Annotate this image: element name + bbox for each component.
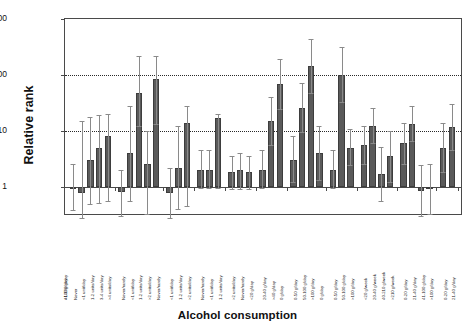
- error-cap-upper: [277, 59, 282, 60]
- x-tick-label: 0-50 g/day: [294, 280, 299, 300]
- error-bar: [412, 106, 413, 141]
- error-cap-lower: [330, 188, 335, 189]
- error-cap-lower: [317, 180, 322, 181]
- y-tick-mark: [61, 131, 65, 132]
- error-cap-lower: [229, 189, 234, 190]
- x-tick-label: >100 g/day: [430, 279, 435, 300]
- x-tick-label: <1 unit/day: [210, 279, 215, 300]
- x-group-tick: [225, 187, 226, 191]
- error-cap-lower: [207, 188, 212, 189]
- error-cap-lower: [379, 201, 384, 202]
- error-cap-upper: [388, 131, 393, 132]
- error-bar: [187, 106, 188, 206]
- x-tick-label: 21-40 g/day: [413, 277, 418, 300]
- error-cap-upper: [291, 136, 296, 137]
- error-bar: [319, 126, 320, 180]
- x-axis-title: Alcohol consumption: [0, 309, 475, 321]
- error-cap-upper: [229, 156, 234, 157]
- error-bar: [90, 117, 91, 204]
- error-cap-upper: [128, 106, 133, 107]
- x-tick-label: Never/rarely: [157, 277, 162, 300]
- error-bar: [218, 114, 219, 188]
- x-tick-label: 3-4 units/day: [100, 275, 105, 300]
- error-bar: [311, 39, 312, 92]
- error-bar: [156, 56, 157, 124]
- x-tick-label: <20 g/day: [250, 281, 255, 300]
- error-bar: [293, 136, 294, 182]
- y-tick-mark: [61, 19, 65, 20]
- error-cap-upper: [379, 147, 384, 148]
- error-cap-upper: [185, 106, 190, 107]
- error-cap-upper: [198, 150, 203, 151]
- error-cap-upper: [154, 56, 159, 57]
- error-cap-upper: [330, 150, 335, 151]
- error-cap-lower: [370, 143, 375, 144]
- x-group-tick: [436, 187, 437, 191]
- error-cap-lower: [308, 93, 313, 94]
- error-cap-lower: [401, 164, 406, 165]
- error-bar: [443, 123, 444, 173]
- error-bar: [262, 150, 263, 188]
- error-cap-lower: [128, 201, 133, 202]
- error-cap-upper: [418, 165, 423, 166]
- y-axis-title: Relative rank: [22, 40, 36, 210]
- error-cap-upper: [216, 114, 221, 115]
- error-cap-upper: [238, 153, 243, 154]
- y-tick-label-100: 100: [0, 69, 7, 79]
- error-cap-upper: [97, 115, 102, 116]
- x-tick-label: Never/rarely: [241, 277, 246, 300]
- error-cap-lower: [277, 109, 282, 110]
- x-group-tick: [256, 187, 257, 191]
- y-tick-mark: [61, 187, 65, 188]
- x-tick-labels: Never<1 unit/day1-2 units/day3-4 units/d…: [64, 218, 462, 304]
- x-tick-label: 20-40 g/week: [373, 274, 378, 300]
- error-cap-upper: [317, 126, 322, 127]
- error-bar: [170, 168, 171, 218]
- x-tick-label: Never: [74, 289, 79, 300]
- x-group-tick: [194, 187, 195, 191]
- error-cap-upper: [449, 104, 454, 105]
- error-cap-upper: [308, 39, 313, 40]
- x-tick-label: >2 units/day: [148, 277, 153, 300]
- x-tick-label: >100 g/day: [64, 279, 69, 300]
- x-tick-label: 1-2 units/day: [179, 275, 184, 300]
- x-tick-label: 20-40 g/day: [263, 277, 268, 300]
- error-cap-upper: [136, 56, 141, 57]
- error-bar: [350, 129, 351, 166]
- error-cap-upper: [427, 164, 432, 165]
- error-cap-upper: [370, 108, 375, 109]
- plot-inner: [65, 19, 461, 214]
- error-bar: [121, 170, 122, 216]
- x-tick-label: <1 unit/day: [170, 279, 175, 300]
- x-tick-label: >100 g/day: [351, 279, 356, 300]
- error-cap-upper: [410, 106, 415, 107]
- x-tick-label: >4 units/day: [108, 277, 113, 300]
- x-group-tick: [357, 187, 358, 191]
- error-cap-lower: [246, 189, 251, 190]
- error-bar: [280, 59, 281, 108]
- error-bar: [82, 121, 83, 218]
- x-tick-label: 50-100 g/day: [303, 275, 308, 300]
- error-cap-lower: [339, 102, 344, 103]
- error-cap-lower: [449, 150, 454, 151]
- error-bar: [302, 83, 303, 132]
- error-cap-lower: [418, 216, 423, 217]
- error-cap-lower: [154, 124, 159, 125]
- error-cap-lower: [260, 188, 265, 189]
- error-cap-lower: [136, 126, 141, 127]
- error-bar: [452, 104, 453, 150]
- x-group-tick: [397, 187, 398, 191]
- error-cap-upper: [260, 150, 265, 151]
- error-cap-lower: [119, 216, 124, 217]
- error-cap-lower: [105, 201, 110, 202]
- error-cap-lower: [269, 145, 274, 146]
- gridline-10: [65, 131, 461, 132]
- error-bar: [108, 114, 109, 201]
- error-cap-upper: [79, 121, 84, 122]
- error-cap-lower: [410, 141, 415, 142]
- error-cap-lower: [388, 182, 393, 183]
- error-cap-lower: [88, 204, 93, 205]
- error-cap-upper: [176, 126, 181, 127]
- x-tick-label: 1-2 units/day: [91, 275, 96, 300]
- error-cap-lower: [145, 214, 150, 215]
